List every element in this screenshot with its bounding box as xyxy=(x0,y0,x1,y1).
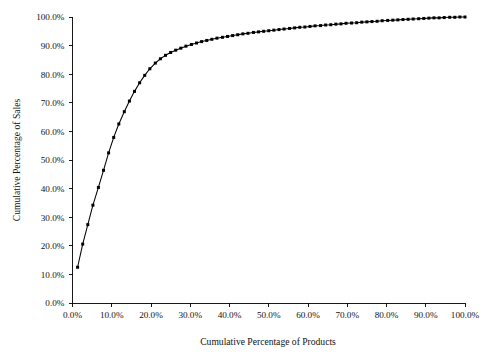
data-point-marker xyxy=(221,36,224,39)
data-point-marker xyxy=(200,40,203,43)
y-tick-label: 20.0% xyxy=(41,241,65,251)
data-point-marker xyxy=(226,35,229,38)
data-point-marker xyxy=(443,16,446,19)
x-tick-label: 0.0% xyxy=(63,310,82,320)
data-point-marker xyxy=(360,21,363,24)
data-point-marker xyxy=(427,17,430,20)
data-point-marker xyxy=(288,27,291,30)
y-axis-title: Cumulative Percentage of Sales xyxy=(11,99,22,222)
data-point-marker xyxy=(417,17,420,20)
data-point-marker xyxy=(262,30,265,33)
data-point-marker xyxy=(345,22,348,25)
data-point-marker xyxy=(215,37,218,40)
data-point-marker xyxy=(97,186,100,189)
data-point-marker xyxy=(246,32,249,35)
data-point-marker xyxy=(174,49,177,52)
data-point-marker xyxy=(154,62,157,65)
x-tick-label: 50.0% xyxy=(257,310,281,320)
y-tick-label: 40.0% xyxy=(41,184,65,194)
data-point-marker xyxy=(381,19,384,22)
data-point-marker xyxy=(236,33,239,36)
data-point-marker xyxy=(86,223,89,226)
y-tick-label: 80.0% xyxy=(41,70,65,80)
data-point-marker xyxy=(365,20,368,23)
data-point-marker xyxy=(143,74,146,77)
data-point-marker xyxy=(117,122,120,125)
data-point-marker xyxy=(159,57,162,60)
data-point-marker xyxy=(391,19,394,22)
data-point-marker xyxy=(407,18,410,21)
data-point-marker xyxy=(179,47,182,50)
data-point-marker xyxy=(112,136,115,139)
data-point-marker xyxy=(334,23,337,26)
data-point-marker xyxy=(257,30,260,33)
x-tick-label: 20.0% xyxy=(139,310,163,320)
data-point-marker xyxy=(138,81,141,84)
data-point-marker xyxy=(303,26,306,29)
data-point-marker xyxy=(272,29,275,32)
data-point-marker xyxy=(267,29,270,32)
data-point-marker xyxy=(458,16,461,19)
data-point-marker xyxy=(376,20,379,23)
data-point-marker xyxy=(314,24,317,27)
data-point-marker xyxy=(464,16,467,19)
data-point-marker xyxy=(401,18,404,21)
data-point-marker xyxy=(453,16,456,19)
data-point-marker xyxy=(339,22,342,25)
y-tick-label: 10.0% xyxy=(41,270,65,280)
y-tick-label: 0.0% xyxy=(45,298,64,308)
data-point-marker xyxy=(169,51,172,54)
x-tick-label: 70.0% xyxy=(335,310,359,320)
data-point-marker xyxy=(412,18,415,21)
data-point-marker xyxy=(293,26,296,29)
data-point-marker xyxy=(128,100,131,103)
y-tick-label: 50.0% xyxy=(41,155,65,165)
data-point-marker xyxy=(231,34,234,37)
x-tick-label: 100.0% xyxy=(451,310,480,320)
data-point-marker xyxy=(350,22,353,25)
data-point-marker xyxy=(438,16,441,19)
data-point-marker xyxy=(205,39,208,42)
data-point-marker xyxy=(133,90,136,93)
y-tick-label: 70.0% xyxy=(41,98,65,108)
data-point-marker xyxy=(81,243,84,246)
data-point-marker xyxy=(355,21,358,24)
x-tick-label: 90.0% xyxy=(414,310,438,320)
x-tick-label: 30.0% xyxy=(178,310,202,320)
data-point-marker xyxy=(370,20,373,23)
data-point-marker xyxy=(148,67,151,70)
data-point-marker xyxy=(252,31,255,34)
data-point-marker xyxy=(329,23,332,26)
data-point-marker xyxy=(190,43,193,46)
y-tick-label: 30.0% xyxy=(41,213,65,223)
data-point-marker xyxy=(91,204,94,207)
data-point-marker xyxy=(195,42,198,45)
data-point-marker xyxy=(448,16,451,19)
x-tick-label: 80.0% xyxy=(375,310,399,320)
chart-canvas: 0.0%10.0%20.0%30.0%40.0%50.0%60.0%70.0%8… xyxy=(0,0,490,356)
y-tick-label: 100.0% xyxy=(36,12,65,22)
pareto-chart: 0.0%10.0%20.0%30.0%40.0%50.0%60.0%70.0%8… xyxy=(0,0,490,356)
x-tick-label: 60.0% xyxy=(296,310,320,320)
data-point-marker xyxy=(396,18,399,21)
data-point-marker xyxy=(241,32,244,35)
y-tick-label: 60.0% xyxy=(41,127,65,137)
data-point-marker xyxy=(184,45,187,48)
data-point-marker xyxy=(277,28,280,31)
data-point-marker xyxy=(123,110,126,113)
data-point-marker xyxy=(283,28,286,31)
data-point-marker xyxy=(107,151,110,154)
data-point-marker xyxy=(386,19,389,22)
data-point-marker xyxy=(102,169,105,172)
x-axis-title: Cumulative Percentage of Products xyxy=(200,336,336,347)
data-point-marker xyxy=(210,38,213,41)
data-point-marker xyxy=(308,25,311,28)
data-point-marker xyxy=(319,24,322,27)
data-point-marker xyxy=(76,266,79,269)
data-point-marker xyxy=(164,54,167,57)
x-tick-label: 40.0% xyxy=(218,310,242,320)
data-point-marker xyxy=(324,24,327,27)
data-point-marker xyxy=(298,26,301,29)
data-point-marker xyxy=(422,17,425,20)
y-tick-label: 90.0% xyxy=(41,41,65,51)
